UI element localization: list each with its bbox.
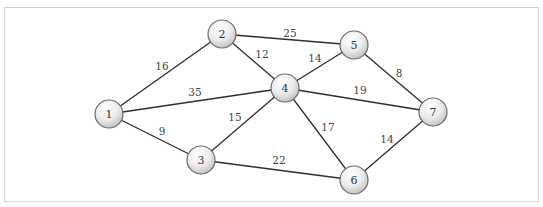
node-label: 7 (430, 106, 437, 119)
graph-node-2: 2 (208, 20, 236, 48)
edge-weight-label: 22 (272, 154, 285, 166)
nodes-layer: 1234567 (95, 20, 447, 194)
graph-canvas: 1635925121522141917814 1234567 (0, 0, 543, 207)
edge-weight-label: 12 (255, 48, 268, 60)
edge-weight-label: 14 (308, 52, 322, 64)
edge-weight-label: 8 (396, 67, 403, 79)
edges-layer (109, 34, 433, 180)
edge-weight-label: 16 (155, 60, 169, 72)
edge-weight-label: 25 (283, 27, 296, 39)
node-label: 6 (351, 174, 358, 187)
edge-1-2 (109, 34, 222, 114)
edge-4-6 (285, 88, 354, 180)
graph-node-5: 5 (340, 31, 368, 59)
edge-1-3 (109, 114, 201, 160)
node-label: 4 (282, 82, 289, 95)
node-label: 2 (219, 28, 226, 41)
edge-weight-label: 19 (353, 84, 366, 96)
edge-weight-label: 9 (159, 125, 166, 137)
edge-6-7 (354, 112, 433, 180)
graph-node-3: 3 (187, 146, 215, 174)
edge-weight-label: 14 (380, 133, 394, 145)
graph-node-1: 1 (95, 100, 123, 128)
graph-node-7: 7 (419, 98, 447, 126)
edge-5-7 (354, 45, 433, 112)
edge-weight-label: 35 (188, 86, 201, 98)
edge-weight-label: 17 (321, 121, 334, 133)
edge-weight-label: 15 (228, 111, 241, 123)
graph-node-4: 4 (271, 74, 299, 102)
node-label: 1 (106, 108, 113, 121)
node-label: 5 (351, 39, 358, 52)
node-label: 3 (198, 154, 205, 167)
graph-node-6: 6 (340, 166, 368, 194)
